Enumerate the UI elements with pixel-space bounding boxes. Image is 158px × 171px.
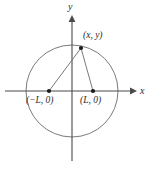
point-apex (79, 46, 83, 50)
segment-apex-to-right-focus (81, 48, 93, 91)
y-axis-label: y (68, 2, 72, 12)
x-axis-label: x (140, 86, 144, 96)
point-label-left-focus: (−L, 0) (26, 96, 54, 106)
point-left-focus (47, 89, 51, 93)
point-label-apex: (x, y) (83, 31, 103, 41)
point-label-right-focus: (L, 0) (80, 96, 101, 106)
y-axis-arrowhead (69, 15, 76, 22)
point-right-focus (91, 89, 95, 93)
diagram-canvas (0, 0, 158, 171)
segment-apex-to-left-focus (49, 48, 81, 91)
figure-container: y x (x, y) (−L, 0) (L, 0) (0, 0, 158, 171)
x-axis-arrowhead (130, 88, 137, 95)
